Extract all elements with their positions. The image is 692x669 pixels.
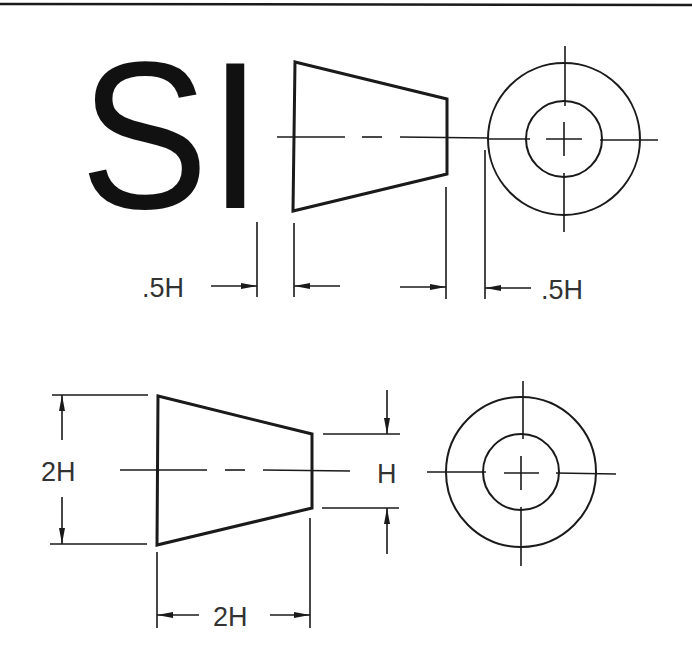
top-border-line — [0, 4, 692, 5]
dim-label-height-h: H — [377, 459, 397, 489]
dim-label-height-2h: 2H — [41, 457, 76, 487]
bottom-centerline — [120, 470, 350, 471]
bottom-end-view-circles — [427, 381, 616, 566]
top-frustum-side-view — [277, 62, 488, 211]
dim-label-right-half-h: .5H — [541, 275, 583, 305]
bottom-dimensions — [50, 390, 400, 628]
drawing-canvas: SI .5H .5H — [0, 0, 692, 669]
top-centerline — [277, 137, 488, 138]
top-circle-crosshair — [488, 46, 658, 232]
title-letters: SI — [80, 18, 262, 253]
title-letters-si: SI — [80, 18, 262, 253]
dim-label-width-2h: 2H — [213, 602, 248, 632]
bottom-frustum-side-view — [120, 396, 350, 545]
dim-label-left-half-h: .5H — [142, 273, 184, 303]
top-end-view-circles — [488, 46, 658, 232]
bottom-circle-crosshair — [427, 381, 616, 566]
